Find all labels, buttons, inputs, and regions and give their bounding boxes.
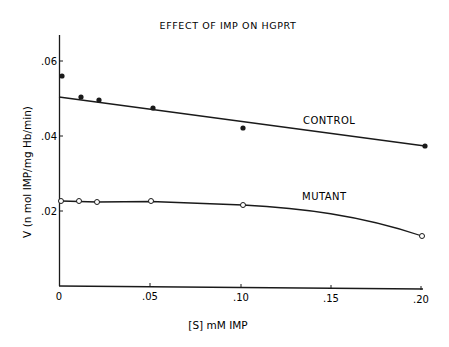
mutant-point (149, 199, 154, 204)
control-label: CONTROL (303, 115, 355, 126)
mutant-point (420, 234, 425, 239)
y-axis-label: V (n mol IMP/mg Hb/min) (21, 106, 33, 238)
x-tick-label: .15 (323, 293, 339, 304)
control-point (150, 105, 155, 110)
control-point (422, 143, 427, 148)
chart: EFFECT OF IMP ON HGPRT .02 .04 .06 0 .05… (0, 0, 449, 347)
x-tick-label: .20 (413, 294, 429, 305)
y-tick-label: .02 (41, 206, 57, 217)
series-mutant: MUTANT (59, 191, 425, 239)
mutant-label: MUTANT (302, 191, 347, 202)
control-fit-line (59, 97, 425, 146)
mutant-point (241, 203, 246, 208)
x-tick-label: .10 (233, 292, 249, 303)
mutant-point (77, 199, 82, 204)
series-control: CONTROL (59, 73, 428, 148)
y-tick-label: .04 (41, 131, 57, 142)
control-point (96, 97, 101, 102)
y-tick-label: .06 (41, 56, 57, 67)
chart-title: EFFECT OF IMP ON HGPRT (160, 20, 297, 31)
control-point (240, 125, 245, 130)
x-axis-label: [S] mM IMP (188, 319, 247, 331)
control-point (59, 73, 64, 78)
mutant-point (59, 199, 64, 204)
mutant-point (95, 200, 100, 205)
x-tick-label: 0 (56, 291, 62, 302)
x-tick-label: .05 (142, 291, 158, 302)
control-point (78, 94, 83, 99)
